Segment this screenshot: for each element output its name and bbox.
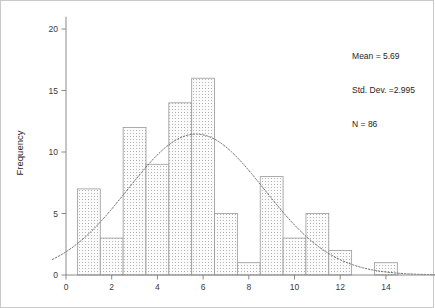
histogram-bar — [260, 177, 283, 275]
histogram-bar — [192, 78, 215, 275]
x-tick-label: 0 — [64, 282, 69, 292]
histogram-bar — [146, 164, 169, 275]
histogram-bar — [169, 103, 192, 275]
stat-std-dev: Std. Dev. =2.995 — [352, 85, 415, 96]
stat-mean: Mean = 5.69 — [352, 51, 415, 62]
histogram-bar — [306, 214, 329, 276]
y-axis-title: Frequency — [14, 130, 25, 175]
bars-group — [77, 78, 397, 275]
x-tick-label: 12 — [335, 282, 345, 292]
histogram-bar — [123, 127, 146, 275]
y-tick-label: 15 — [49, 86, 59, 96]
x-tick-label: 6 — [201, 282, 206, 292]
y-tick-label: 0 — [53, 270, 58, 280]
x-tick-label: 2 — [109, 282, 114, 292]
statistics-annotation: Mean = 5.69 Std. Dev. =2.995 N = 86 — [352, 29, 415, 152]
histogram-bar — [77, 189, 100, 275]
y-tick-label: 20 — [49, 24, 59, 34]
histogram-bar — [374, 263, 397, 275]
x-tick-label: 14 — [381, 282, 391, 292]
x-tick-label: 4 — [155, 282, 160, 292]
histogram-bar — [100, 238, 123, 275]
histogram-bar — [329, 250, 352, 275]
x-tick-label: 8 — [246, 282, 251, 292]
x-axis-ticks: 02468101214 — [64, 275, 391, 292]
y-axis-ticks: 05101520 — [49, 24, 66, 280]
y-tick-label: 10 — [49, 147, 59, 157]
y-tick-label: 5 — [53, 209, 58, 219]
histogram-bar — [283, 238, 306, 275]
stat-n: N = 86 — [352, 119, 415, 130]
histogram-bar — [215, 214, 238, 276]
x-tick-label: 10 — [290, 282, 300, 292]
histogram-bar — [237, 263, 260, 275]
